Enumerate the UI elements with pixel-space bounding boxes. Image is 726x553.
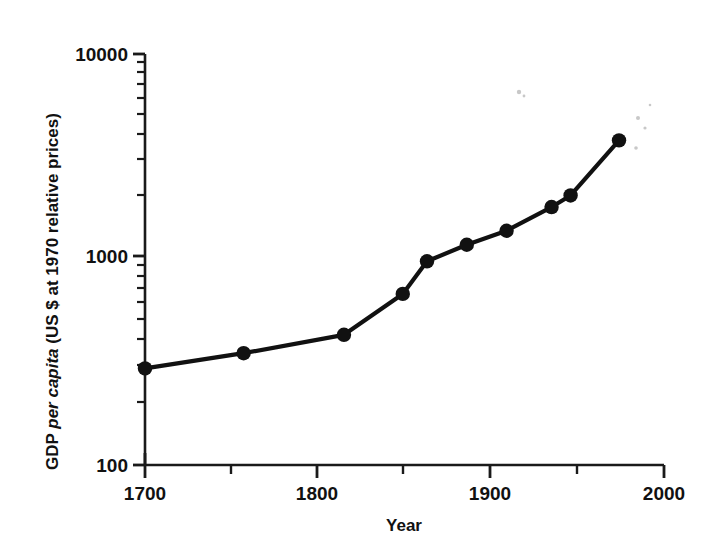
y-tick-label-10000: 10000 bbox=[75, 44, 128, 65]
y-axis-title-italic: per capita bbox=[43, 348, 62, 429]
data-point bbox=[460, 238, 474, 252]
data-point bbox=[337, 328, 351, 342]
data-point bbox=[612, 133, 626, 147]
data-point bbox=[138, 361, 152, 375]
y-axis-title-suffix: (US $ at 1970 relative prices) bbox=[43, 113, 62, 348]
y-axis-title-prefix: GDP bbox=[43, 429, 62, 470]
x-tick-label-2000: 2000 bbox=[643, 483, 685, 504]
x-tick-label-1900: 1900 bbox=[469, 483, 511, 504]
data-point bbox=[563, 188, 577, 202]
data-point bbox=[396, 287, 410, 301]
y-axis-title: GDP per capita (US $ at 1970 relative pr… bbox=[43, 113, 62, 470]
data-point bbox=[499, 224, 513, 238]
y-tick-label-1000: 1000 bbox=[86, 246, 128, 267]
x-tick-label-1800: 1800 bbox=[296, 483, 338, 504]
data-point bbox=[544, 200, 558, 214]
svg-text:GDP per capita (US $ at 1970 r: GDP per capita (US $ at 1970 relative pr… bbox=[43, 113, 62, 470]
y-tick-label-100: 100 bbox=[96, 455, 128, 476]
chart-figure: 10000 1000 100 GDP per capita (US $ at 1… bbox=[0, 0, 726, 553]
x-axis-title: Year bbox=[386, 516, 422, 535]
data-point bbox=[420, 254, 434, 268]
gdp-per-capita-line-chart: 10000 1000 100 GDP per capita (US $ at 1… bbox=[0, 0, 726, 553]
data-point bbox=[236, 346, 250, 360]
x-tick-label-1700: 1700 bbox=[124, 483, 166, 504]
